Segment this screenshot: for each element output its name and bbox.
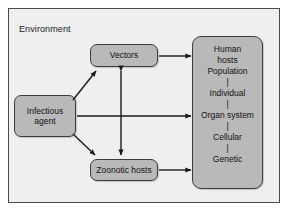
node-zoonotic-hosts[interactable]: Zoonotic hosts — [90, 159, 158, 181]
node-vectors-label: Vectors — [110, 50, 138, 61]
hierarchy-level-cellular: Cellular — [213, 132, 242, 143]
human-hosts-title-line2: hosts — [217, 55, 237, 66]
human-hosts-title-line1: Human — [214, 44, 241, 55]
node-human-hosts[interactable]: Human hosts Population | Individual | Or… — [192, 36, 263, 189]
node-infectious-agent[interactable]: Infectious agent — [14, 95, 76, 137]
diagram-canvas: Environment Vectors Infectious agent Zoo… — [0, 0, 290, 213]
node-infectious-agent-label: Infectious agent — [27, 106, 63, 127]
node-infectious-agent-line1: Infectious — [27, 106, 63, 116]
node-infectious-agent-line2: agent — [34, 116, 55, 126]
environment-label: Environment — [19, 24, 71, 34]
hierarchy-separator-1: | — [226, 77, 228, 88]
human-hosts-hierarchy: Human hosts Population | Individual | Or… — [193, 44, 262, 165]
hierarchy-separator-2: | — [226, 99, 228, 110]
node-zoonotic-hosts-label: Zoonotic hosts — [96, 165, 151, 176]
hierarchy-separator-3: | — [226, 121, 228, 132]
hierarchy-level-organ-system: Organ system — [201, 110, 254, 121]
hierarchy-level-population: Population — [207, 66, 247, 77]
hierarchy-level-genetic: Genetic — [213, 154, 242, 165]
hierarchy-separator-4: | — [226, 143, 228, 154]
node-vectors[interactable]: Vectors — [90, 44, 158, 67]
hierarchy-level-individual: Individual — [210, 88, 246, 99]
